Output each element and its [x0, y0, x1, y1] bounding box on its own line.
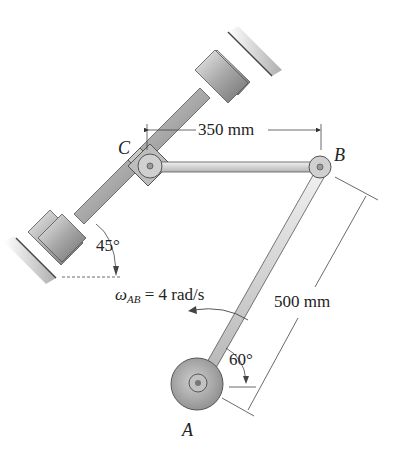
pin-c	[138, 154, 162, 178]
omega-symbol: ω	[115, 285, 127, 304]
dimension-ab-label: 500 mm	[272, 292, 332, 312]
dimension-cb-label: 350 mm	[198, 120, 254, 140]
label-c: C	[118, 138, 130, 159]
link-ab	[198, 170, 326, 382]
mechanism-diagram: C B A 350 mm 500 mm 45° 60° ωAB = 4 rad/…	[0, 0, 393, 452]
disk-a	[171, 358, 223, 410]
link-cb	[150, 162, 320, 172]
angular-velocity-label: ωAB = 4 rad/s	[115, 285, 204, 305]
label-a: A	[182, 420, 193, 441]
omega-subscript: AB	[127, 293, 140, 305]
diagram-svg	[0, 0, 393, 452]
angle-60-label: 60°	[229, 350, 253, 370]
angle-45-label: 45°	[96, 236, 120, 256]
label-b: B	[334, 145, 345, 166]
pin-b	[309, 156, 331, 178]
omega-value: = 4 rad/s	[145, 285, 205, 304]
